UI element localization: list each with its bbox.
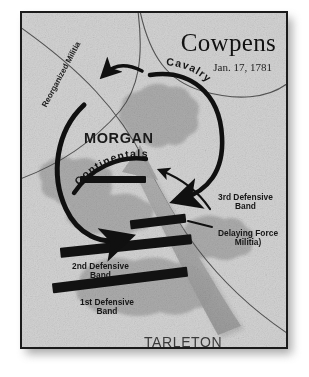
map-frame: Cowpens Jan. 17, 1781 MORGAN TARLETON 3r…	[20, 11, 288, 349]
map-artwork	[22, 13, 286, 347]
battle-map-figure: Cowpens Jan. 17, 1781 MORGAN TARLETON 3r…	[0, 0, 309, 377]
